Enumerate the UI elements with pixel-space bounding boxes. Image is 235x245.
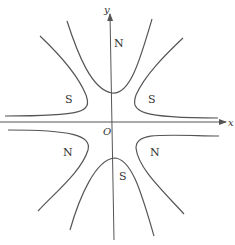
region-label-upper-right: S bbox=[148, 93, 156, 106]
curve-lower-left bbox=[8, 130, 88, 211]
origin-label: O bbox=[103, 126, 111, 137]
region-label-lower-left: N bbox=[63, 146, 73, 159]
curve-upper-left bbox=[5, 36, 88, 116]
curve-upper-right bbox=[135, 38, 218, 118]
curve-lower-right bbox=[136, 135, 219, 214]
region-label-top: N bbox=[114, 37, 124, 50]
curve-bottom bbox=[70, 158, 154, 236]
region-label-lower-right: N bbox=[150, 146, 160, 159]
x-axis-label: x bbox=[228, 117, 234, 128]
y-axis-label: y bbox=[103, 4, 110, 15]
region-label-upper-left: S bbox=[65, 93, 73, 106]
hyperbola-diagram: y x O N S S S N N bbox=[0, 0, 235, 245]
region-label-bottom: S bbox=[119, 170, 127, 183]
